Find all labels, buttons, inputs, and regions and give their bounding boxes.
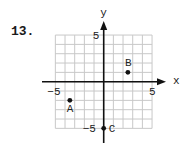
point-label-a: A	[67, 103, 74, 115]
point-b	[125, 70, 130, 75]
y-tick-label: −5	[83, 123, 96, 135]
x-axis-arrow-icon	[157, 78, 166, 85]
point-c	[101, 126, 106, 131]
x-tick-label: 5	[149, 86, 156, 98]
y-axis-label: y	[100, 7, 107, 19]
y-axis-arrow-icon	[100, 21, 107, 30]
point-label-b: B	[125, 57, 132, 69]
coordinate-plane: xy−555−5ABC	[0, 0, 188, 156]
x-axis-label: x	[173, 75, 180, 87]
point-a	[67, 98, 72, 103]
x-tick-label: −5	[47, 86, 60, 98]
point-label-c: C	[109, 123, 116, 135]
y-tick-label: 5	[93, 30, 100, 42]
